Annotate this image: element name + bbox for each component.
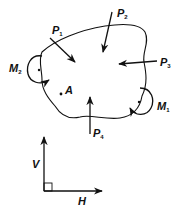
moment-m1-arc [130,88,153,114]
point-a: A [60,84,73,96]
force-p2: P2 [103,7,128,52]
force-p2-label: P2 [117,7,128,20]
moment-m2-point [38,69,40,71]
free-body-diagram: P1 P2 P3 P4 M2 M1 [0,0,179,207]
coordinate-axes: V H [32,137,102,207]
point-a-dot [60,93,63,96]
right-angle-marker [44,183,52,191]
moment-m1-label: M1 [157,100,170,113]
force-p3-arrow [119,61,157,64]
point-a-label: A [64,84,73,96]
moment-m1-point [138,101,140,103]
force-p3-label: P3 [160,56,171,69]
body-outline [40,24,146,118]
force-p1-arrow [50,38,75,62]
force-p4: P4 [90,97,104,140]
h-axis-label: H [78,195,87,207]
force-p2-arrow [103,12,112,52]
force-p1-label: P1 [52,24,63,37]
force-p4-label: P4 [93,127,104,140]
moment-m2: M2 [9,56,49,83]
moment-m2-label: M2 [9,62,22,75]
v-axis-label: V [32,158,41,170]
